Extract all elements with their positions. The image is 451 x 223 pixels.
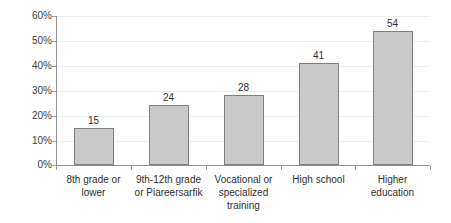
- bar-slot-2: 28: [206, 16, 281, 165]
- bar-vocational-or-specialized-training[interactable]: [224, 95, 264, 165]
- category-label-3: High school: [281, 173, 356, 186]
- y-tick-label-20-wrap: 20%: [22, 111, 52, 121]
- x-tick-mark-2: [206, 166, 207, 170]
- bar-value-4: 54: [387, 18, 398, 29]
- y-tick-label-20: 20%: [22, 111, 52, 121]
- y-tick-label-10: 10%: [22, 136, 52, 146]
- y-tick-label-50-wrap: 50%: [22, 36, 52, 46]
- x-tick-mark-0: [56, 166, 57, 170]
- y-tick-label-60-wrap: 60%: [22, 11, 52, 21]
- bar-chart: 60% 50% 40% 30% 20% 10% 0% 15 24 28: [0, 0, 451, 223]
- x-tick-mark-1: [131, 166, 132, 170]
- bar-value-1: 24: [163, 92, 174, 103]
- x-tick-mark-4: [355, 166, 356, 170]
- y-tick-label-40: 40%: [22, 61, 52, 71]
- x-tick-mark-3: [281, 166, 282, 170]
- x-axis-line: [56, 165, 430, 166]
- y-tick-label-0: 0%: [22, 160, 52, 170]
- bar-slot-0: 15: [56, 16, 131, 165]
- bar-value-3: 41: [313, 50, 324, 61]
- y-tick-label-50: 50%: [22, 36, 52, 46]
- bar-9th-12th-grade-or-piareersarfik[interactable]: [149, 105, 189, 165]
- y-tick-label-10-wrap: 10%: [22, 136, 52, 146]
- y-tick-label-40-wrap: 40%: [22, 61, 52, 71]
- y-tick-label-30-wrap: 30%: [22, 86, 52, 96]
- x-tick-mark-5: [430, 166, 431, 170]
- category-label-1: 9th-12th grade or Piareersarfik: [129, 173, 208, 199]
- bar-8th-grade-or-lower[interactable]: [74, 128, 114, 165]
- bar-slot-4: 54: [355, 16, 430, 165]
- bar-slot-1: 24: [131, 16, 206, 165]
- bar-value-2: 28: [238, 82, 249, 93]
- bar-value-0: 15: [88, 115, 99, 126]
- y-tick-label-0-wrap: 0%: [22, 160, 52, 170]
- plot-area: 15 24 28 41 54: [56, 16, 430, 165]
- bar-slot-3: 41: [281, 16, 356, 165]
- y-tick-label-60: 60%: [22, 11, 52, 21]
- category-label-0: 8th grade or lower: [56, 173, 131, 199]
- category-label-4: Higher education: [355, 173, 430, 199]
- bar-higher-education[interactable]: [373, 31, 413, 165]
- y-tick-label-30: 30%: [22, 86, 52, 96]
- bar-high-school[interactable]: [299, 63, 339, 165]
- category-label-2: Vocational or specialized training: [206, 173, 281, 212]
